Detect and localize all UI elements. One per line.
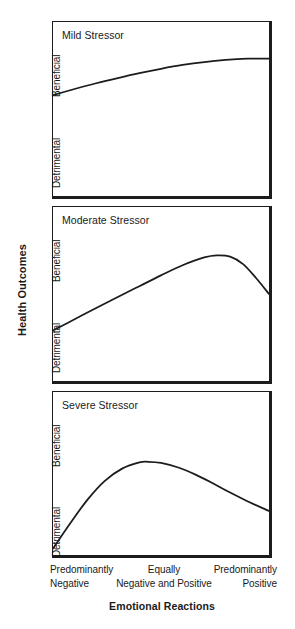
x-tick-left-line2: Negative xyxy=(50,577,113,591)
x-axis-title: Emotional Reactions xyxy=(50,600,274,612)
panel-title-mild: Mild Stressor xyxy=(62,29,124,41)
mild-stressor-curve xyxy=(53,59,269,96)
x-tick-right-line2: Positive xyxy=(214,577,277,591)
moderate-stressor-curve xyxy=(53,255,269,330)
x-tick-center-line1: Equally xyxy=(148,564,180,575)
y-tick-detrimental-mild: Detrimental xyxy=(50,138,64,188)
y-tick-beneficial-mild: Beneficial xyxy=(50,55,64,97)
x-tick-center-line2: Negative and Positive xyxy=(114,577,214,591)
panel-title-moderate: Moderate Stressor xyxy=(62,214,149,226)
y-tick-detrimental-severe: Detrimental xyxy=(50,507,64,557)
panel-moderate-stressor: Moderate Stressor xyxy=(52,206,272,384)
x-tick-right-line1: Predominantly xyxy=(214,564,277,575)
mild-stressor-curve-svg xyxy=(53,22,269,196)
severe-stressor-curve xyxy=(53,462,269,549)
panel-mild-stressor: Mild Stressor xyxy=(52,21,272,199)
panel-title-severe: Severe Stressor xyxy=(62,399,138,411)
y-tick-beneficial-severe: Beneficial xyxy=(50,425,64,467)
x-axis-tick-labels: Predominantly Negative Equally Negative … xyxy=(50,563,278,591)
y-tick-beneficial-moderate: Beneficial xyxy=(50,240,64,282)
stress-health-outcomes-figure: Health Outcomes Mild Stressor Beneficial… xyxy=(0,0,295,629)
x-tick-left-line1: Predominantly xyxy=(50,564,113,575)
x-tick-predominantly-negative: Predominantly Negative xyxy=(50,563,113,590)
severe-stressor-curve-svg xyxy=(53,392,269,555)
y-axis-title: Health Outcomes xyxy=(14,225,30,355)
x-tick-equally-negative-and-positive: Equally Negative and Positive xyxy=(114,563,214,590)
x-tick-predominantly-positive: Predominantly Positive xyxy=(214,563,277,590)
y-tick-detrimental-moderate: Detrimental xyxy=(50,323,64,373)
panel-severe-stressor: Severe Stressor xyxy=(52,391,272,558)
moderate-stressor-curve-svg xyxy=(53,207,269,381)
